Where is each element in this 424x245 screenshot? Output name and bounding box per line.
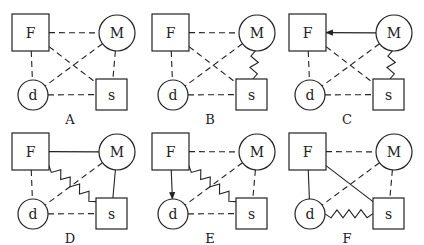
edge-F-s-dashed <box>326 47 373 83</box>
panel-caption-c: C <box>342 112 352 127</box>
node-label-F: F <box>166 25 176 41</box>
node-label-d: d <box>306 206 315 222</box>
panel-caption-e: E <box>205 231 215 245</box>
node-label-F: F <box>26 144 36 160</box>
panel-caption-d: D <box>65 231 75 245</box>
diagram-panel-d: FMdsD <box>12 133 135 245</box>
edge-F-d-dashed <box>31 51 32 80</box>
edge-M-d-dashed <box>45 163 102 205</box>
diagram-panel-e: FMdsE <box>152 133 275 245</box>
node-label-M: M <box>250 144 264 160</box>
diagram-panel-c: FMdsC <box>289 14 412 127</box>
node-label-F: F <box>303 25 313 41</box>
edge-F-d-arrow <box>171 170 172 199</box>
node-label-d: d <box>29 206 38 222</box>
node-label-M: M <box>387 144 401 160</box>
edge-F-s-dashed <box>49 47 96 83</box>
edge-M-s-solid <box>113 170 116 198</box>
node-label-s: s <box>385 206 392 222</box>
node-label-s: s <box>248 206 255 222</box>
family-relationship-diagrams: FMdsAFMdsBFMdsCFMdsDFMdsEFMdsF <box>0 0 424 245</box>
node-label-M: M <box>250 25 264 41</box>
edge-F-d-dashed <box>308 51 309 80</box>
edge-F-s-dashed <box>189 47 236 83</box>
diagram-panel-f: FMdsF <box>289 133 412 245</box>
node-label-M: M <box>110 25 124 41</box>
edge-F-d-dashed <box>171 51 172 80</box>
node-label-s: s <box>248 87 255 103</box>
panel-caption-b: B <box>205 112 215 127</box>
node-label-d: d <box>169 206 178 222</box>
node-label-d: d <box>306 87 315 103</box>
node-label-d: d <box>169 87 178 103</box>
edge-M-s-dashed <box>390 170 393 198</box>
panel-caption-a: A <box>64 112 75 127</box>
edge-F-d-dashed <box>31 170 32 199</box>
diagram-panel-a: FMdsA <box>12 14 135 127</box>
node-label-F: F <box>166 144 176 160</box>
node-label-s: s <box>108 87 115 103</box>
edge-M-s-zigzag <box>250 51 258 79</box>
edge-d-s-zigzag <box>325 210 373 218</box>
panel-caption-f: F <box>342 231 351 245</box>
edge-F-s-zigzag <box>49 166 96 202</box>
node-label-F: F <box>26 25 36 41</box>
edge-M-s-dashed <box>253 170 256 198</box>
edge-M-s-zigzag <box>387 51 395 79</box>
node-label-s: s <box>385 87 392 103</box>
diagram-panel-b: FMdsB <box>152 14 275 127</box>
node-label-F: F <box>303 144 313 160</box>
node-label-s: s <box>108 206 115 222</box>
node-label-M: M <box>387 25 401 41</box>
edge-F-d-solid <box>308 170 309 199</box>
edge-F-s-zigzag <box>189 166 236 202</box>
node-label-M: M <box>110 144 124 160</box>
edge-M-d-dashed <box>185 163 242 205</box>
edge-M-s-dashed <box>113 51 116 79</box>
edge-F-s-solid <box>326 166 373 202</box>
node-label-d: d <box>29 87 38 103</box>
